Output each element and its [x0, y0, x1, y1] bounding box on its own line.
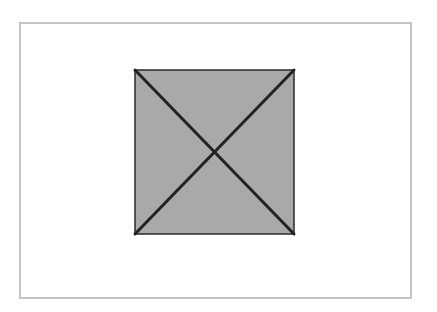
square-with-diagonals: [0, 0, 437, 312]
